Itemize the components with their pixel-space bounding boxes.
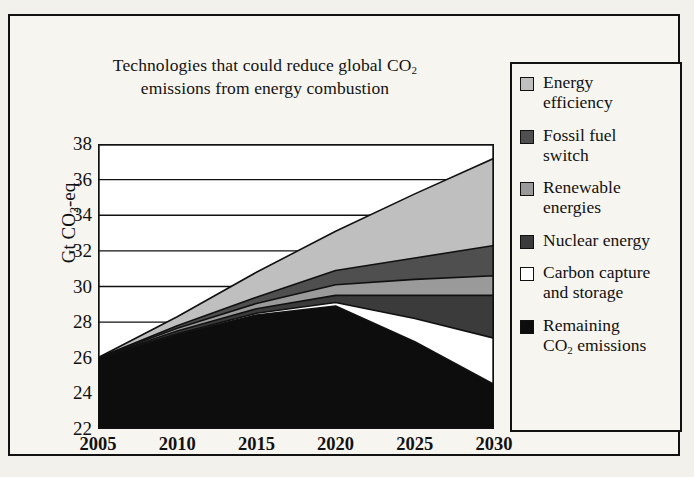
x-axis-tick-2005: 2005 xyxy=(63,434,133,455)
legend-item-remaining-co2-emissions[interactable]: RemainingCO2 emissions xyxy=(520,315,674,357)
chart-title-line1: Technologies that could reduce global CO xyxy=(113,55,412,75)
legend-label-energy-efficiency: Energyefficiency xyxy=(543,72,613,113)
legend-label-renewable-energies: Renewableenergies xyxy=(543,177,621,218)
legend-swatch-remaining-co2-icon xyxy=(520,320,534,334)
stacked-area-chart xyxy=(98,144,494,429)
y-axis-tick-24: 24 xyxy=(58,382,92,404)
legend-label-nuclear-energy: Nuclear energy xyxy=(543,230,650,250)
chart-legend: EnergyefficiencyFossil fuelswitchRenewab… xyxy=(510,62,682,432)
legend-item-nuclear-energy[interactable]: Nuclear energy xyxy=(520,230,674,250)
x-axis-tick-2015: 2015 xyxy=(221,434,291,455)
legend-swatch-fossil-fuel-switch-icon xyxy=(520,130,534,144)
y-axis-title: Gt CO2-eq xyxy=(58,143,82,303)
y-axis-title-pre: Gt CO xyxy=(58,213,79,263)
y-axis-tick-26: 26 xyxy=(58,347,92,369)
x-axis-tick-2010: 2010 xyxy=(142,434,212,455)
legend-swatch-nuclear-energy-icon xyxy=(520,235,534,249)
legend-item-energy-efficiency[interactable]: Energyefficiency xyxy=(520,72,674,113)
page-frame: Technologies that could reduce global CO… xyxy=(8,14,680,456)
plot-area xyxy=(98,144,494,429)
y-axis-title-post: -eq xyxy=(58,183,79,207)
legend-swatch-renewable-energies-icon xyxy=(520,182,534,196)
legend-label-fossil-fuel-switch: Fossil fuelswitch xyxy=(543,125,616,166)
legend-label-carbon-capture-and-storage: Carbon captureand storage xyxy=(543,262,650,303)
x-axis-tick-2020: 2020 xyxy=(301,434,371,455)
chart-title: Technologies that could reduce global CO… xyxy=(50,54,480,100)
chart-title-subscript: 2 xyxy=(412,64,418,76)
y-axis-tick-28: 28 xyxy=(58,311,92,333)
legend-label-remaining-co2-emissions: RemainingCO2 emissions xyxy=(543,315,646,357)
legend-item-carbon-capture-and-storage[interactable]: Carbon captureand storage xyxy=(520,262,674,303)
legend-swatch-energy-efficiency-icon xyxy=(520,77,534,91)
x-axis-tick-2030: 2030 xyxy=(459,434,529,455)
chart-title-line2: emissions from energy combustion xyxy=(141,78,389,98)
x-axis-tick-2025: 2025 xyxy=(380,434,450,455)
legend-item-fossil-fuel-switch[interactable]: Fossil fuelswitch xyxy=(520,125,674,166)
legend-item-renewable-energies[interactable]: Renewableenergies xyxy=(520,177,674,218)
y-axis-title-subscript: 2 xyxy=(67,207,81,213)
x-axis-tick-labels: 200520102015202020252030 xyxy=(98,434,494,462)
legend-swatch-carbon-capture-icon xyxy=(520,267,534,281)
